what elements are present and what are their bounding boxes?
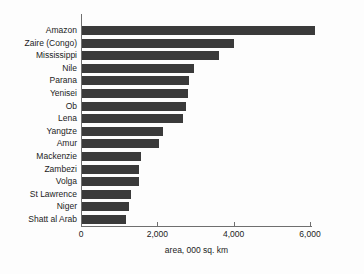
bar [82,102,186,111]
bar [82,139,159,148]
category-label: Parana [50,74,77,87]
x-tick-label: 0 [79,229,84,239]
category-label: Yangtze [46,125,77,138]
category-label: Lena [58,112,77,125]
bar-row: Lena [0,112,364,125]
category-label: Nile [62,62,77,75]
bar [82,215,126,224]
category-label: Zambezi [44,163,77,176]
category-label: Amur [57,137,77,150]
bar-row: Parana [0,74,364,87]
bar [82,152,141,161]
bar-row: Mackenzie [0,150,364,163]
bar [82,177,139,186]
bar [82,202,129,211]
bar-row: Mississippi [0,49,364,62]
bar [82,76,189,85]
bar [82,64,194,73]
bar [82,114,183,123]
bar-row: Zambezi [0,163,364,176]
bar [82,190,131,199]
bar-row: Nile [0,62,364,75]
bar-row: Niger [0,200,364,213]
category-label: Yenisei [50,87,77,100]
category-label: Mississippi [36,49,77,62]
category-label: St Lawrence [30,188,77,201]
category-label: Zaire (Congo) [25,37,77,50]
bar-row: Volga [0,175,364,188]
category-label: Volga [56,175,77,188]
bar-row: Amazon [0,24,364,37]
category-label: Shatt al Arab [28,213,77,226]
category-label: Ob [66,100,77,113]
x-tick-label: 4,000 [223,229,244,239]
bar-row: Yangtze [0,125,364,138]
bar [82,39,234,48]
category-label: Niger [57,200,77,213]
bar-row: St Lawrence [0,188,364,201]
bar-row: Zaire (Congo) [0,37,364,50]
x-axis-title: area, 000 sq. km [81,245,312,255]
bar [82,165,139,174]
bar-row: Shatt al Arab [0,213,364,226]
bar [82,127,163,136]
category-label: Mackenzie [36,150,77,163]
bar-row: Ob [0,100,364,113]
x-tick-label: 2,000 [147,229,168,239]
category-label: Amazon [46,24,77,37]
bar-row: Amur [0,137,364,150]
bar-row: Yenisei [0,87,364,100]
bar [82,26,315,35]
bar [82,89,188,98]
x-tick-label: 6,000 [299,229,320,239]
x-axis-line [81,226,312,227]
bar [82,51,219,60]
bar-chart: 02,0004,0006,000 AmazonZaire (Congo)Miss… [0,0,364,274]
